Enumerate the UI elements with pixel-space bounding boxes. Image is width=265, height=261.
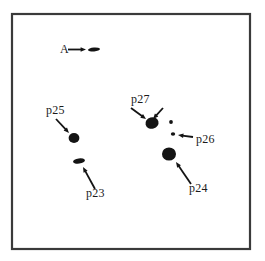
p26-arrow-shaft (182, 136, 193, 137)
arrow-layer (56, 47, 193, 189)
p25-arrow-shaft (56, 119, 66, 130)
p25-arrow (56, 119, 69, 133)
spot-label-p26: p26 (196, 132, 215, 146)
p27-arrow-right-shaft (156, 108, 163, 116)
spot-map-svg: Ap25p23p27p26p24 (0, 0, 265, 261)
p26-spot-upper (169, 120, 173, 124)
spot-label-p23: p23 (86, 186, 105, 200)
spot-label-p25: p25 (46, 103, 65, 117)
p27-arrow-right (153, 108, 163, 119)
p24-spot (162, 147, 176, 160)
A-arrow-head (81, 47, 86, 52)
spot-label-p27: p27 (131, 92, 150, 106)
p25-spot (69, 133, 80, 143)
spot-layer (69, 47, 176, 164)
A-arrow (68, 47, 86, 52)
spot-label-p24: p24 (189, 181, 208, 195)
label-layer: Ap25p23p27p26p24 (46, 42, 215, 200)
p27-arrow-left-shaft (131, 108, 143, 117)
figure-canvas: Ap25p23p27p26p24 (0, 0, 265, 261)
p26-arrow (178, 133, 193, 138)
A-spot (88, 47, 100, 52)
p27-spot (144, 116, 160, 131)
spot-label-A: A (60, 42, 69, 56)
p23-spot (73, 158, 86, 165)
p27-arrow-left (131, 108, 146, 119)
p26-arrow-head (178, 133, 184, 138)
p26-spot-lower (171, 132, 175, 135)
